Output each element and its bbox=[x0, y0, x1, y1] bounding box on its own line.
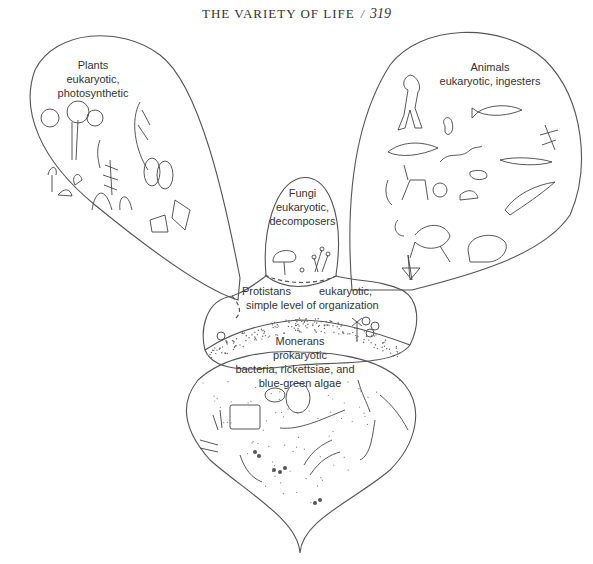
stipple-dot bbox=[307, 321, 308, 322]
stipple-dot bbox=[280, 482, 281, 483]
stipple-dot bbox=[274, 476, 275, 477]
stipple-dot bbox=[309, 410, 310, 411]
stipple-dot bbox=[300, 331, 301, 332]
stipple-dot bbox=[320, 477, 321, 478]
stipple-dot bbox=[257, 443, 258, 444]
stipple-dot bbox=[296, 492, 297, 493]
stipple-dot bbox=[211, 357, 212, 358]
stipple-dot bbox=[219, 347, 220, 348]
stipple-dot bbox=[271, 323, 272, 324]
stipple-dot bbox=[272, 324, 273, 325]
stipple-dot bbox=[376, 392, 377, 393]
monerans-label: Monerans prokaryotic bacteria, rickettsi… bbox=[230, 334, 370, 390]
stipple-dot bbox=[399, 380, 400, 381]
stipple-dot bbox=[284, 445, 285, 446]
stipple-dot bbox=[306, 327, 307, 328]
stipple-dot bbox=[297, 330, 298, 331]
protistans-trait-2: simple level of organization bbox=[242, 298, 382, 312]
stipple-dot bbox=[264, 331, 265, 332]
monerans-name: Monerans bbox=[230, 334, 370, 348]
stipple-dot bbox=[352, 332, 353, 333]
animals-label: Animals eukaryotic, ingesters bbox=[420, 60, 560, 88]
stipple-dot bbox=[265, 486, 266, 487]
stipple-dot bbox=[258, 330, 259, 331]
stipple-dot bbox=[364, 331, 365, 332]
stipple-dot bbox=[310, 502, 311, 503]
stipple-dot bbox=[305, 319, 306, 320]
stipple-dot bbox=[348, 470, 349, 471]
stipple-dot bbox=[315, 318, 316, 319]
stipple-dot bbox=[307, 324, 308, 325]
stipple-dot bbox=[318, 326, 319, 327]
stipple-dot bbox=[298, 330, 299, 331]
stipple-dot bbox=[253, 441, 254, 442]
stipple-dot bbox=[296, 321, 297, 322]
stipple-dot bbox=[344, 457, 345, 458]
stipple-dot bbox=[305, 325, 306, 326]
fungi-label: Fungi eukaryotic, decomposers bbox=[265, 186, 340, 228]
stipple-dot bbox=[231, 401, 232, 402]
protistans-label: Protistanseukaryotic, simple level of or… bbox=[242, 284, 382, 312]
stipple-dot bbox=[299, 318, 300, 319]
stipple-dot bbox=[306, 478, 307, 479]
stipple-dot bbox=[263, 430, 264, 431]
stipple-dot bbox=[214, 400, 215, 401]
stipple-dot bbox=[312, 325, 313, 326]
stipple-dot bbox=[268, 446, 269, 447]
stipple-dot bbox=[261, 329, 262, 330]
moneran-illustrations bbox=[200, 380, 408, 505]
fungi-trait-1: eukaryotic, bbox=[265, 200, 340, 214]
stipple-dot bbox=[390, 353, 391, 354]
stipple-dot bbox=[279, 399, 280, 400]
stipple-dot bbox=[248, 402, 249, 403]
stipple-dot bbox=[274, 326, 275, 327]
stipple-dot bbox=[288, 409, 289, 410]
stipple-dot bbox=[266, 420, 267, 421]
stipple-dot bbox=[294, 327, 295, 328]
stipple-dot bbox=[344, 402, 345, 403]
stipple-dot bbox=[377, 348, 378, 349]
stipple-dot bbox=[337, 326, 338, 327]
stipple-dot bbox=[383, 342, 384, 343]
stipple-dot bbox=[338, 323, 339, 324]
stipple-dot bbox=[396, 348, 397, 349]
stipple-dot bbox=[341, 418, 342, 419]
stipple-dot bbox=[213, 350, 214, 351]
stipple-dot bbox=[316, 332, 317, 333]
stipple-dot bbox=[212, 350, 213, 351]
stipple-dot bbox=[285, 320, 286, 321]
stipple-dot bbox=[209, 354, 210, 355]
stipple-dot bbox=[227, 422, 228, 423]
stipple-dot bbox=[278, 325, 279, 326]
stipple-dot bbox=[272, 461, 273, 462]
stipple-dot bbox=[220, 407, 221, 408]
stipple-dot bbox=[202, 382, 203, 383]
stipple-dot bbox=[279, 391, 280, 392]
stipple-dot bbox=[300, 320, 301, 321]
stipple-dot bbox=[281, 412, 282, 413]
plants-trait-1: eukaryotic, bbox=[48, 72, 138, 86]
stipple-dot bbox=[329, 436, 330, 437]
stipple-dot bbox=[389, 349, 390, 350]
stipple-dot bbox=[324, 325, 325, 326]
stipple-dot bbox=[254, 332, 255, 333]
protistans-trait-1: eukaryotic, bbox=[319, 285, 372, 297]
stipple-dot bbox=[332, 325, 333, 326]
stipple-dot bbox=[364, 413, 365, 414]
stipple-dot bbox=[359, 407, 360, 408]
stipple-dot bbox=[382, 350, 383, 351]
stipple-dot bbox=[367, 424, 368, 425]
plants-name: Plants bbox=[48, 58, 138, 72]
stipple-dot bbox=[217, 398, 218, 399]
stipple-dot bbox=[297, 324, 298, 325]
plants-trait-2: photosynthetic bbox=[48, 86, 138, 100]
stipple-dot bbox=[314, 321, 315, 322]
stipple-dot bbox=[397, 356, 398, 357]
stipple-dot bbox=[262, 330, 263, 331]
stipple-dot bbox=[371, 335, 372, 336]
stipple-dot bbox=[321, 331, 322, 332]
stipple-dot bbox=[373, 347, 374, 348]
stipple-dot bbox=[320, 321, 321, 322]
stipple-dot bbox=[252, 442, 253, 443]
stipple-dot bbox=[396, 351, 397, 352]
